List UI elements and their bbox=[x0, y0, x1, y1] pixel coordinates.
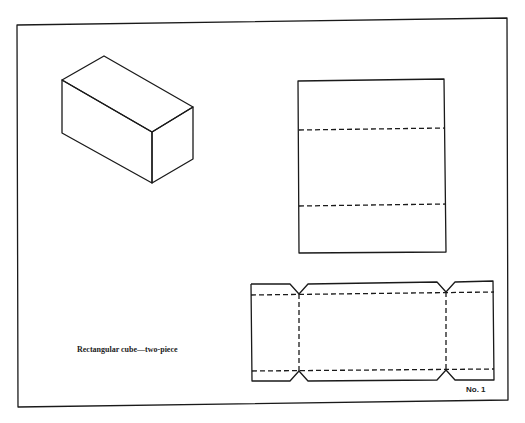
diagram-caption: Rectangular cube—two-piece bbox=[77, 345, 178, 354]
lid-pattern bbox=[298, 79, 446, 253]
plate-number: No. 1 bbox=[466, 385, 486, 394]
isometric-box bbox=[62, 56, 193, 183]
body-net bbox=[251, 281, 494, 381]
diagram-canvas bbox=[0, 0, 525, 423]
